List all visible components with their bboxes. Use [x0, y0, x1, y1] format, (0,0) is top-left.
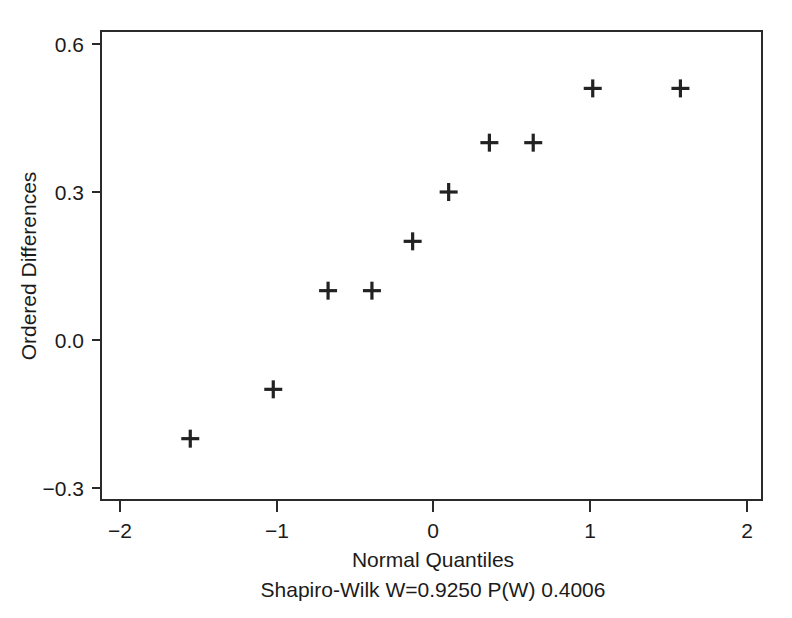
x-tick-label-2: 0 — [427, 519, 439, 542]
y-tick-label-2: 0.0 — [55, 329, 84, 352]
plot-canvas: 0.6 0.3 0.0 −0.3 Ordered Differences −2 … — [0, 0, 792, 618]
x-tick-label-0: −2 — [108, 519, 132, 542]
y-axis-title: Ordered Differences — [17, 172, 40, 361]
y-tick-label-0: 0.6 — [55, 33, 84, 56]
x-tick-label-3: 1 — [584, 519, 596, 542]
x-axis-title: Normal Quantiles — [352, 548, 514, 571]
shapiro-wilk-caption: Shapiro-Wilk W=0.9250 P(W) 0.4006 — [261, 578, 606, 601]
y-tick-label-1: 0.3 — [55, 181, 84, 204]
x-tick-label-4: 2 — [741, 519, 753, 542]
x-tick-label-1: −1 — [265, 519, 289, 542]
qq-plot-figure: 0.6 0.3 0.0 −0.3 Ordered Differences −2 … — [0, 0, 792, 618]
y-tick-label-3: −0.3 — [43, 477, 84, 500]
